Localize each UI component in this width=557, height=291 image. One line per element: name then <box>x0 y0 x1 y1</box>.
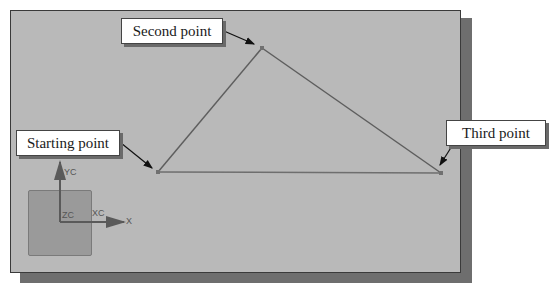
point-marker-third[interactable] <box>439 171 443 175</box>
callout-starting-point: Starting point <box>16 130 120 156</box>
callout-second-point: Second point <box>121 18 223 44</box>
line-segment-second-to-third[interactable] <box>262 48 441 173</box>
yc-axis-label: YC <box>64 167 77 177</box>
line-segment-start-to-third[interactable] <box>158 172 441 173</box>
leader-arrow-second <box>224 31 254 44</box>
zc-axis-label: ZC <box>62 210 74 220</box>
leader-arrow-start <box>121 143 152 168</box>
leader-arrow-third <box>440 146 452 165</box>
point-marker-start[interactable] <box>156 170 160 174</box>
xc-axis-label: XC <box>92 208 105 218</box>
point-marker-second[interactable] <box>260 46 264 50</box>
callout-third-point: Third point <box>446 120 546 146</box>
line-segment-start-to-second[interactable] <box>158 48 262 172</box>
x-axis-label: X <box>126 216 132 226</box>
